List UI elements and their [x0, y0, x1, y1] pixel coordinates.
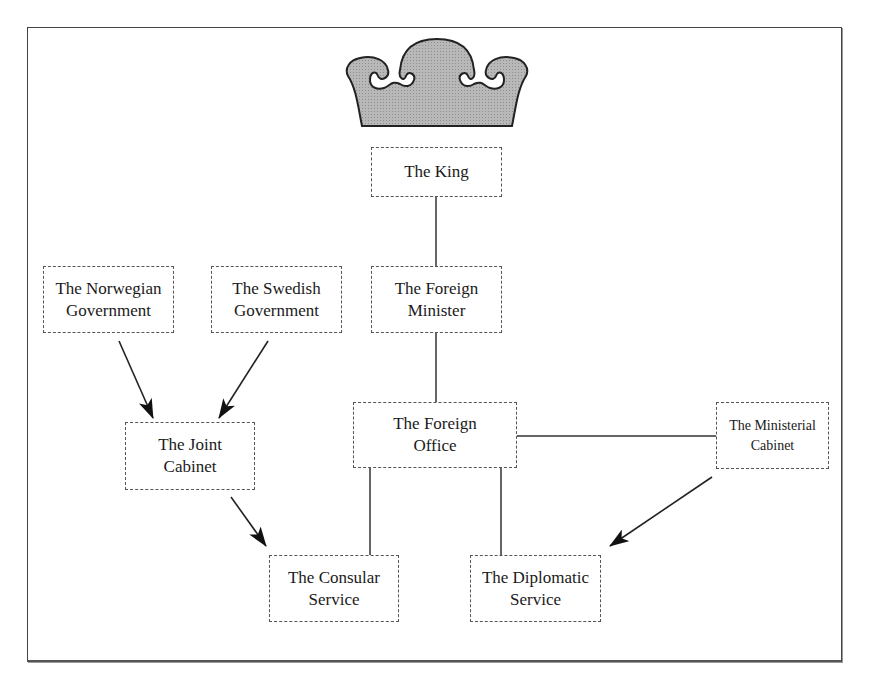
node-label-line1: The Ministerial: [729, 416, 816, 436]
node-swedish-government: The Swedish Government: [211, 266, 342, 333]
node-ministerial-cabinet: The Ministerial Cabinet: [716, 402, 829, 469]
node-label-line2: Government: [66, 300, 151, 322]
arrow-ministerial-diplomatic: [610, 477, 712, 546]
node-label-line2: Minister: [408, 300, 466, 322]
node-label-line2: Service: [510, 589, 561, 611]
node-king-label: The King: [404, 161, 469, 183]
node-label-line2: Cabinet: [164, 456, 217, 478]
node-king: The King: [371, 147, 502, 197]
node-diplomatic-service: The Diplomatic Service: [470, 555, 601, 622]
arrow-norwegian-joint: [119, 341, 153, 418]
node-label-line1: The Diplomatic: [482, 567, 589, 589]
node-consular-service: The Consular Service: [269, 555, 399, 622]
node-foreign-office: The Foreign Office: [353, 402, 517, 468]
arrow-joint-consular: [231, 497, 266, 546]
node-joint-cabinet: The Joint Cabinet: [125, 422, 255, 490]
node-foreign-minister: The Foreign Minister: [371, 266, 502, 333]
node-label-line2: Cabinet: [751, 436, 795, 456]
node-label-line1: The Joint: [158, 434, 222, 456]
node-norwegian-government: The Norwegian Government: [43, 266, 174, 333]
node-label-line1: The Foreign: [393, 413, 477, 435]
arrow-swedish-joint: [219, 341, 268, 418]
node-label-line1: The Consular: [288, 567, 380, 589]
node-label-line2: Government: [234, 300, 319, 322]
node-label-line1: The Norwegian: [55, 278, 161, 300]
node-label-line1: The Foreign: [395, 278, 479, 300]
node-label-line1: The Swedish: [232, 278, 320, 300]
crown-icon: [344, 36, 530, 130]
node-label-line2: Office: [413, 435, 456, 457]
node-label-line2: Service: [309, 589, 360, 611]
